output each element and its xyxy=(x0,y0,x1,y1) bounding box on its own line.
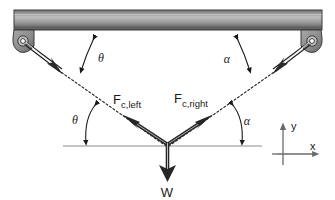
force-right-subscript: c,right xyxy=(182,98,208,109)
angle-alpha-top-arc xyxy=(237,38,250,71)
angle-alpha-bottom-arc xyxy=(232,104,242,143)
axis-label-x: x xyxy=(310,140,316,152)
horizontal-beam xyxy=(14,10,322,30)
angle-label-alpha-bottom: α xyxy=(244,114,251,128)
force-cable-right-label: F c,right xyxy=(174,91,208,109)
cable-force-diagram: θ α θ α F c,left F c,right W y x xyxy=(0,0,335,200)
axis-label-y: y xyxy=(291,120,297,132)
weight-vector xyxy=(159,143,176,182)
angle-label-alpha-top: α xyxy=(224,52,231,66)
angle-label-theta-bottom: θ xyxy=(72,113,78,127)
angle-theta-top-arc xyxy=(81,38,94,71)
force-left-subscript: c,left xyxy=(121,99,141,110)
force-cable-right-vector xyxy=(168,115,213,145)
weight-label: W xyxy=(161,185,174,200)
force-cable-left-label: F c,left xyxy=(113,92,141,110)
force-left-symbol: F xyxy=(113,92,121,107)
angle-theta-bottom-arc xyxy=(86,104,96,143)
force-right-symbol: F xyxy=(174,91,182,106)
force-cable-left-vector xyxy=(122,115,167,145)
angle-label-theta-top: θ xyxy=(98,51,104,65)
